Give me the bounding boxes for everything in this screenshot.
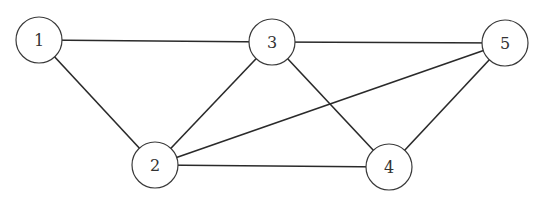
node-label: 1 bbox=[34, 31, 44, 50]
node-2: 2 bbox=[132, 142, 178, 188]
graph-diagram: 12345 bbox=[0, 0, 543, 201]
edge-5-4 bbox=[389, 43, 505, 167]
edge-3-2 bbox=[155, 42, 272, 165]
edge-5-2 bbox=[155, 43, 505, 165]
edge-1-2 bbox=[39, 40, 155, 165]
graph-svg: 12345 bbox=[0, 0, 543, 201]
node-3: 3 bbox=[249, 19, 295, 65]
edge-2-4 bbox=[155, 165, 389, 167]
node-label: 2 bbox=[150, 156, 160, 175]
node-label: 4 bbox=[384, 158, 394, 177]
node-1: 1 bbox=[16, 17, 62, 63]
node-label: 3 bbox=[267, 33, 277, 52]
edge-1-3 bbox=[39, 40, 272, 42]
edge-3-5 bbox=[272, 42, 505, 43]
node-5: 5 bbox=[482, 20, 528, 66]
node-4: 4 bbox=[366, 144, 412, 190]
node-label: 5 bbox=[500, 34, 510, 53]
